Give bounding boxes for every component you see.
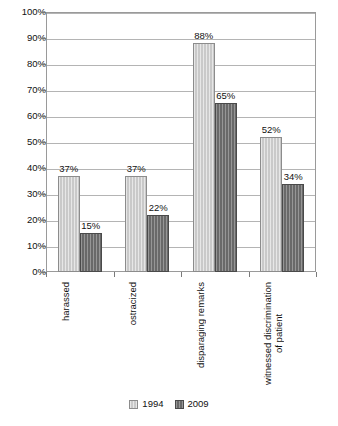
bar-value-label: 15% bbox=[74, 221, 108, 231]
y-axis-tick-label: 60% bbox=[2, 111, 46, 121]
legend-item-2009: 2009 bbox=[175, 399, 209, 409]
bar-chart: 0%10%20%30%40%50%60%70%80%90%100% 37%15%… bbox=[0, 0, 338, 426]
bar-value-label: 22% bbox=[141, 203, 175, 213]
bar-value-label: 88% bbox=[187, 31, 221, 41]
bar-2009-0 bbox=[80, 233, 102, 272]
bar-value-label: 52% bbox=[254, 125, 288, 135]
bar-value-label: 37% bbox=[52, 164, 86, 174]
bar-value-label: 37% bbox=[119, 164, 153, 174]
legend-swatch-icon bbox=[175, 400, 184, 409]
legend-swatch-icon bbox=[129, 400, 138, 409]
y-axis-tick-label: 40% bbox=[2, 163, 46, 173]
bars-layer: 37%15%37%22%88%65%52%34% bbox=[46, 12, 316, 272]
bar-value-label: 65% bbox=[209, 91, 243, 101]
x-axis-category-label: witnessed discrimination of patient bbox=[262, 282, 302, 385]
bar-2009-2 bbox=[215, 103, 237, 272]
x-axis-tick-mark bbox=[181, 272, 182, 277]
chart-legend: 19942009 bbox=[0, 399, 338, 409]
x-axis-category-label: harassed bbox=[60, 282, 100, 321]
legend-label: 2009 bbox=[188, 399, 209, 409]
x-axis-tick-mark bbox=[114, 272, 115, 277]
legend-item-1994: 1994 bbox=[129, 399, 163, 409]
y-axis-tick-label: 90% bbox=[2, 33, 46, 43]
y-axis-tick-label: 100% bbox=[2, 7, 46, 17]
x-axis-tick-mark bbox=[249, 272, 250, 277]
bar-value-label: 34% bbox=[276, 172, 310, 182]
y-axis-tick-label: 70% bbox=[2, 85, 46, 95]
y-axis-tick-label: 0% bbox=[2, 267, 46, 277]
legend-label: 1994 bbox=[142, 399, 163, 409]
bar-2009-1 bbox=[147, 215, 169, 272]
y-axis-tick-label: 10% bbox=[2, 241, 46, 251]
y-axis-tick-label: 30% bbox=[2, 189, 46, 199]
x-axis-tick-mark bbox=[46, 272, 47, 277]
bar-1994-3 bbox=[260, 137, 282, 272]
y-axis-tick-label: 80% bbox=[2, 59, 46, 69]
x-axis-tick-mark bbox=[316, 272, 317, 277]
bar-2009-3 bbox=[282, 184, 304, 272]
y-axis-tick-label: 50% bbox=[2, 137, 46, 147]
x-axis-category-label: ostracized bbox=[127, 282, 167, 325]
y-axis-tick-label: 20% bbox=[2, 215, 46, 225]
bar-1994-2 bbox=[193, 43, 215, 272]
x-axis-category-label: disparaging remarks bbox=[195, 282, 235, 368]
bar-1994-1 bbox=[125, 176, 147, 272]
